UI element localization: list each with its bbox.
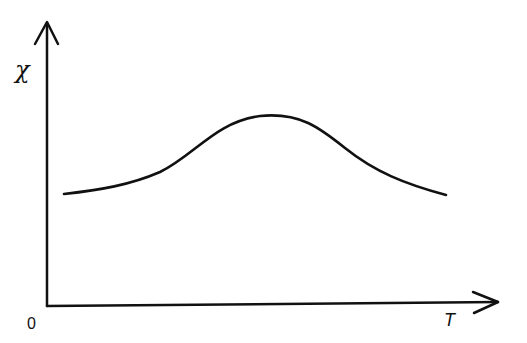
x-axis-line <box>47 302 498 306</box>
x-axis-label: T <box>444 310 455 331</box>
chart-canvas <box>0 0 527 343</box>
data-curve <box>64 115 446 195</box>
y-axis-label: χ <box>15 56 30 84</box>
origin-label: 0 <box>27 315 36 333</box>
